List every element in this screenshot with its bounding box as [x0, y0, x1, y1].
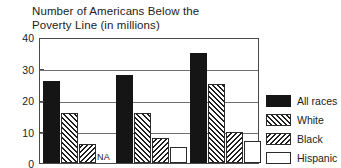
gridline — [40, 70, 258, 71]
bar-white — [134, 113, 151, 163]
y-tick-label: 0 — [2, 158, 34, 168]
y-tick-label: 40 — [2, 32, 34, 44]
y-tick-mark — [39, 69, 44, 70]
chart-title-line-2: Poverty Line (in millions) — [32, 18, 262, 32]
bar-all-races — [116, 75, 133, 163]
legend-label: White — [297, 114, 324, 126]
legend-swatch-icon — [266, 114, 291, 126]
legend-item-hispanic[interactable]: Hispanic — [266, 149, 341, 167]
y-tick-label: 20 — [2, 95, 34, 107]
y-tick-mark — [39, 38, 44, 39]
legend-label: Hispanic — [297, 152, 337, 164]
bar-white — [208, 84, 225, 163]
chart-legend: All racesWhiteBlackHispanic — [266, 92, 341, 168]
legend-swatch-icon — [266, 95, 291, 107]
y-tick-mark — [39, 101, 44, 102]
bar-black — [79, 144, 96, 163]
legend-swatch-icon — [266, 152, 291, 164]
legend-item-white[interactable]: White — [266, 111, 341, 129]
plot-area — [39, 38, 259, 164]
y-axis: 010203040 — [0, 38, 34, 164]
chart-title-line-1: Number of Americans Below the — [32, 4, 262, 18]
legend-item-all-races[interactable]: All races — [266, 92, 341, 110]
chart-title: Number of Americans Below the Poverty Li… — [32, 4, 262, 32]
bar-black — [226, 132, 243, 164]
bar-hispanic — [170, 147, 187, 163]
bar-all-races — [43, 81, 60, 163]
legend-swatch-icon — [266, 133, 291, 145]
legend-item-black[interactable]: Black — [266, 130, 341, 148]
legend-label: Black — [297, 133, 323, 145]
gridline — [40, 102, 258, 103]
bar-hispanic — [244, 141, 261, 163]
y-tick-label: 30 — [2, 64, 34, 76]
bar-white — [61, 113, 78, 163]
na-annotation: NA — [97, 152, 110, 162]
bar-all-races — [190, 53, 207, 163]
bar-black — [152, 138, 169, 163]
legend-label: All races — [297, 95, 337, 107]
y-tick-mark — [39, 132, 44, 133]
chart-root: Number of Americans Below the Poverty Li… — [0, 0, 341, 168]
y-tick-label: 10 — [2, 127, 34, 139]
